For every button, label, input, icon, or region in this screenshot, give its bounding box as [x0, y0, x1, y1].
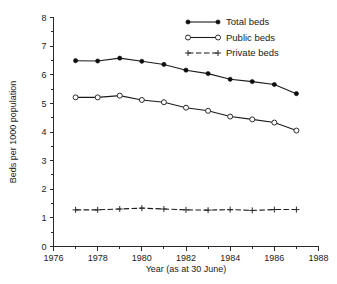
data-point-open-circle: [228, 114, 233, 119]
y-tick-label: 3: [41, 156, 46, 166]
y-tick-label: 0: [41, 242, 46, 252]
data-point-filled-circle: [272, 82, 276, 86]
data-point-plus: [293, 207, 299, 213]
y-axis-title: Beds per 1000 population: [8, 81, 18, 184]
y-tick-label: 6: [41, 70, 46, 80]
line-chart: 012345678 1976197819801982198419861988 B…: [0, 0, 337, 284]
y-tick-label: 7: [41, 41, 46, 51]
data-point-filled-circle: [140, 59, 144, 63]
data-point-filled-circle: [228, 77, 232, 81]
data-point-plus: [227, 207, 233, 213]
open-circle-icon: [216, 35, 221, 40]
series-line-1: [76, 96, 297, 131]
data-point-open-circle: [73, 95, 78, 100]
data-point-plus: [183, 207, 189, 213]
x-tick-label: 1976: [43, 253, 63, 263]
plus-marker-icon: [215, 50, 221, 56]
x-tick-label: 1978: [88, 253, 108, 263]
y-tick-label: 1: [41, 213, 46, 223]
y-tick-label: 5: [41, 99, 46, 109]
data-point-filled-circle: [294, 92, 298, 96]
x-tick-label: 1986: [264, 253, 284, 263]
legend-label-1: Public beds: [226, 32, 275, 43]
data-point-plus: [205, 207, 211, 213]
data-point-open-circle: [206, 108, 211, 113]
y-tick-label: 8: [41, 13, 46, 23]
chart-canvas: 012345678 1976197819801982198419861988 B…: [0, 0, 337, 284]
data-point-filled-circle: [73, 59, 77, 63]
data-point-plus: [271, 207, 277, 213]
data-point-open-circle: [95, 95, 100, 100]
data-point-plus: [161, 206, 167, 212]
y-tick-label: 4: [41, 127, 46, 137]
x-tick-label: 1988: [308, 253, 328, 263]
y-axis-tick-labels: 012345678: [41, 13, 46, 252]
data-point-open-circle: [272, 120, 277, 125]
data-point-open-circle: [184, 105, 189, 110]
data-point-open-circle: [250, 117, 255, 122]
legend-label-2: Private beds: [226, 47, 279, 58]
data-point-plus: [95, 207, 101, 213]
x-axis-tick-labels: 1976197819801982198419861988: [43, 253, 328, 263]
data-point-filled-circle: [118, 56, 122, 60]
x-axis-ticks: [54, 247, 319, 251]
filled-circle-icon: [186, 20, 190, 24]
data-point-open-circle: [161, 100, 166, 105]
data-point-filled-circle: [206, 72, 210, 76]
y-axis-ticks: [50, 18, 54, 247]
x-tick-label: 1984: [220, 253, 240, 263]
data-point-filled-circle: [162, 62, 166, 66]
data-point-filled-circle: [250, 80, 254, 84]
data-point-plus: [73, 207, 79, 213]
data-point-plus: [117, 206, 123, 212]
open-circle-icon: [186, 35, 191, 40]
data-point-open-circle: [294, 128, 299, 133]
x-tick-label: 1982: [176, 253, 196, 263]
x-tick-label: 1980: [132, 253, 152, 263]
data-point-open-circle: [139, 97, 144, 102]
x-axis-title: Year (as at 30 June): [146, 264, 227, 274]
data-point-open-circle: [117, 93, 122, 98]
y-tick-label: 2: [41, 184, 46, 194]
plus-marker-icon: [185, 50, 191, 56]
legend-label-0: Total beds: [226, 16, 270, 27]
data-point-plus: [139, 205, 145, 211]
data-point-filled-circle: [184, 68, 188, 72]
series-line-0: [76, 58, 297, 93]
chart-legend: Total bedsPublic bedsPrivate beds: [185, 16, 279, 58]
filled-circle-icon: [216, 20, 220, 24]
data-point-filled-circle: [96, 59, 100, 63]
series-group: [73, 56, 300, 213]
data-point-plus: [249, 207, 255, 213]
